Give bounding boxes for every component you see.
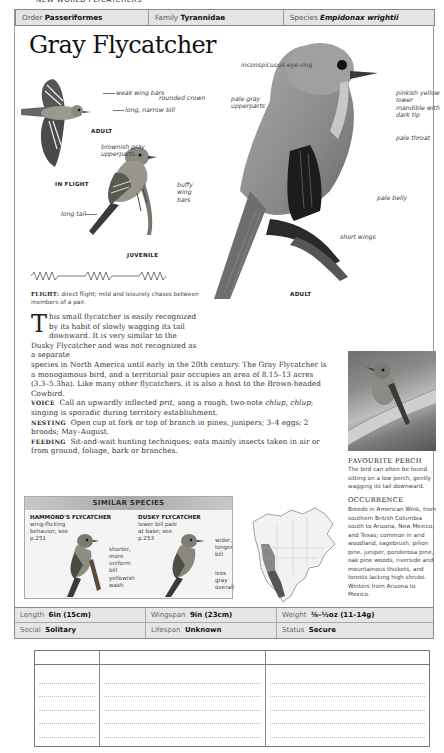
label-wider-longer-bill: wider, longer bill <box>215 537 235 558</box>
voice-song: chlup, chlup <box>265 398 311 407</box>
order-value: Passeriformes <box>45 13 103 22</box>
lifespan-value: Unknown <box>185 626 222 634</box>
drop-cap: T <box>31 314 47 334</box>
label-rounded-crown: rounded crown <box>159 94 206 101</box>
social-value: Solitary <box>45 626 76 634</box>
family-value: Tyrannidae <box>180 13 225 22</box>
caption-juvenile: JUVENILE <box>127 252 158 258</box>
status-value: Secure <box>309 626 336 634</box>
notes-column-comments[interactable] <box>266 665 429 746</box>
label-brownish-gray-upperparts: brownish gray upperparts <box>101 143 151 158</box>
family-label: Family <box>155 13 178 22</box>
similar-species-box: SIMILAR SPECIES HAMMOND'S FLYCATCHER win… <box>24 496 233 599</box>
flight-pattern-icon <box>31 271 181 281</box>
running-head: NEW WORLD FLYCATCHERS <box>36 0 142 4</box>
label-weak-wing-bars: weak wing bars <box>116 89 164 96</box>
weight-value: ⅜–½oz (11–14g) <box>311 611 375 619</box>
adult-bird-illustration <box>200 41 390 301</box>
flight-description: FLIGHT: direct flight; mild and leisurel… <box>31 290 201 306</box>
voice-label: VOICE <box>31 399 55 406</box>
range-map <box>247 504 342 604</box>
wingspan-value: 9in (23cm) <box>190 611 232 619</box>
intro-narrow-text: his small flycatcher is easily recognize… <box>31 312 201 360</box>
perch-photo <box>348 351 436 451</box>
leader-line <box>103 93 115 94</box>
page-title: Gray Flycatcher <box>29 31 216 59</box>
label-less-gray-overall: less gray overall <box>215 570 235 591</box>
label-pale-gray-upperparts: pale gray upperparts <box>231 95 269 110</box>
voice-text: Call an upwardly inflected <box>60 398 160 407</box>
voice-call: prit <box>159 398 172 407</box>
lifespan-label: Lifespan <box>151 626 180 634</box>
caption-adult: ADULT <box>290 291 311 297</box>
label-long-tail: long tail <box>61 210 86 217</box>
notes-header-cell[interactable] <box>266 651 429 665</box>
occurrence-heading: OCCURRENCE <box>348 496 403 504</box>
social-label: Social <box>20 626 41 634</box>
wingspan-label: Wingspan <box>151 611 185 619</box>
intro-wide-text: species in North America until early in … <box>31 360 327 398</box>
label-long-narrow-bill: long, narrow bill <box>125 106 175 113</box>
label-pale-belly: pale belly <box>377 194 407 201</box>
species-cell: Species Empidonax wrightii <box>284 10 434 25</box>
order-label: Order <box>22 13 42 22</box>
stats-row: Length 6in (15cm) Wingspan 9in (23cm) We… <box>15 608 433 623</box>
notes-header-cell[interactable] <box>100 651 266 665</box>
taxonomy-bar: Order Passeriformes Family Tyrannidae Sp… <box>15 9 435 26</box>
weight-label: Weight <box>282 611 306 619</box>
feeding-text: Sit-and-wait hunting techniques; eats ma… <box>31 437 320 456</box>
similar-species-heading: SIMILAR SPECIES <box>25 497 232 510</box>
feeding-label: FEEDING <box>31 438 66 445</box>
family-cell: Family Tyrannidae <box>149 10 284 25</box>
occurrence-text: Breeds in American West, from southern B… <box>348 505 438 599</box>
lifespan-cell: Lifespan Unknown <box>146 623 277 638</box>
status-label: Status <box>282 626 304 634</box>
nesting-label: NESTING <box>31 419 66 426</box>
label-pale-throat: pale throat <box>396 134 430 141</box>
leader-line <box>113 110 124 111</box>
length-value: 6in (15cm) <box>49 611 91 619</box>
stats-table: Length 6in (15cm) Wingspan 9in (23cm) We… <box>14 607 434 639</box>
label-yellowish-wash: yellowish wash <box>109 575 135 589</box>
order-cell: Order Passeriformes <box>16 10 149 25</box>
perch-heading: FAVOURITE PERCH <box>348 457 422 465</box>
species-value: Empidonax wrightii <box>320 13 398 22</box>
caption-flight-adult: ADULT <box>91 128 112 134</box>
status-cell: Status Secure <box>277 623 433 638</box>
length-cell: Length 6in (15cm) <box>15 608 146 622</box>
voice-text: , song a rough, two-note <box>173 398 265 407</box>
label-short-wings: short wings <box>340 233 376 240</box>
social-cell: Social Solitary <box>15 623 146 638</box>
nesting-text: Open cup at fork or top of branch in pin… <box>31 418 309 437</box>
notes-table <box>34 650 430 747</box>
hammonds-flycatcher-illustration <box>57 531 107 599</box>
similar-species-name: HAMMOND'S FLYCATCHER <box>30 514 111 520</box>
notes-column-location[interactable] <box>100 665 266 746</box>
dusky-flycatcher-illustration <box>155 531 215 599</box>
species-description: T his small flycatcher is easily recogni… <box>31 312 327 456</box>
notes-header-cell[interactable] <box>35 651 100 665</box>
stats-row: Social Solitary Lifespan Unknown Status … <box>15 623 433 638</box>
leader-line <box>85 214 97 215</box>
flight-label: FLIGHT: <box>31 291 59 297</box>
weight-cell: Weight ⅜–½oz (11–14g) <box>277 608 433 622</box>
perch-text: The bird can often be found sitting on a… <box>348 465 436 491</box>
label-pinkish-yellow-lower-mandible: pinkish yellow lower mandible with dark … <box>396 89 442 119</box>
notes-column-date[interactable] <box>35 665 100 746</box>
species-label: Species <box>290 13 318 22</box>
label-inconspicuous-eye-ring: inconspicuous eye-ring <box>241 61 312 68</box>
similar-species-name: DUSKY FLYCATCHER <box>138 514 201 520</box>
label-shorter-bill: shorter, more uniform bill <box>109 546 135 574</box>
wingspan-cell: Wingspan 9in (23cm) <box>146 608 277 622</box>
length-label: Length <box>20 611 44 619</box>
